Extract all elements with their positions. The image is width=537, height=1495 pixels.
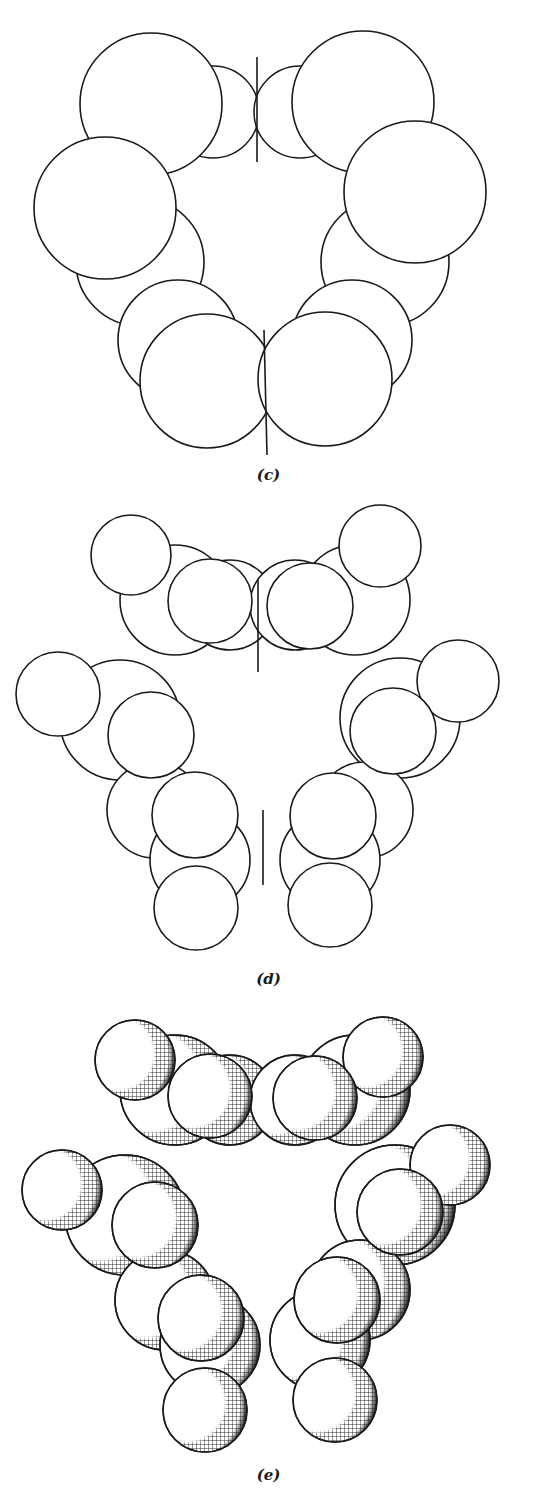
panel-label-e: (e) — [0, 1466, 537, 1484]
atom-front — [290, 773, 376, 859]
atom-front — [112, 1182, 198, 1268]
atom-front — [168, 1054, 252, 1138]
atom-front — [34, 137, 176, 279]
atom-front — [267, 563, 353, 649]
atom-front — [158, 1275, 244, 1361]
panel-label-c: (c) — [0, 466, 537, 484]
atom-front — [168, 559, 252, 643]
hydrogen-atom — [163, 1368, 247, 1452]
panel-c-molecule — [34, 31, 486, 455]
atom-front — [344, 121, 486, 263]
panel-d-molecule — [16, 505, 499, 950]
atom-front — [258, 312, 392, 446]
hydrogen-atom — [339, 505, 421, 587]
hydrogen-atom — [293, 1358, 377, 1442]
hydrogen-atom — [154, 866, 238, 950]
hydrogen-atom — [91, 515, 171, 595]
panel-e-molecule — [22, 1017, 490, 1452]
hydrogen-atom — [95, 1020, 175, 1100]
hydrogen-atom — [16, 652, 100, 736]
hydrogen-atom — [288, 863, 372, 947]
panel-label-d: (d) — [0, 970, 537, 988]
atom-front — [108, 692, 194, 778]
figure-canvas — [0, 0, 537, 1495]
atom-front — [350, 688, 436, 774]
atom-front — [140, 314, 274, 448]
atom-front — [273, 1056, 357, 1140]
hydrogen-atom — [22, 1150, 102, 1230]
atom-front — [357, 1169, 443, 1255]
atom-front — [294, 1257, 380, 1343]
atom-front — [152, 772, 238, 858]
